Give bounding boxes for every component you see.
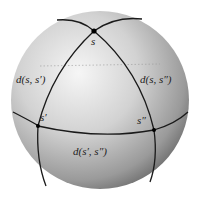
point-s xyxy=(91,28,96,33)
label-d-s-s1: d(s, s′) xyxy=(16,73,46,86)
point-s2 xyxy=(152,128,156,132)
point-s1 xyxy=(36,124,40,128)
label-d-s-s2: d(s, s″) xyxy=(140,73,172,86)
sphere xyxy=(11,11,189,189)
sphere-diagram: s s′ s″ d(s, s′) d(s, s″) d(s′, s″) xyxy=(0,0,200,206)
label-d-s1-s2: d(s′, s″) xyxy=(73,145,107,158)
label-s1: s′ xyxy=(40,111,47,123)
label-s: s xyxy=(91,35,95,47)
label-s2: s″ xyxy=(137,114,146,126)
